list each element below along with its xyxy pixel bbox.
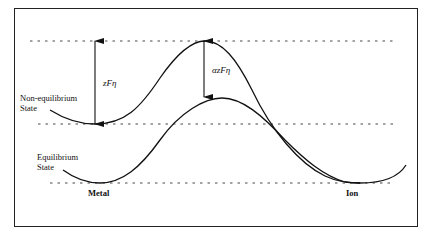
non-equilibrium-label-line2: State (20, 103, 37, 113)
non-equilibrium-curve (50, 41, 406, 183)
equilibrium-label-line2: State (37, 162, 54, 172)
alpha-zfeta-label: αzFη (212, 65, 230, 75)
ion-label: Ion (346, 188, 358, 198)
energy-diagram (0, 0, 426, 241)
non-equilibrium-label-line1: Non-equilibrium (20, 93, 77, 103)
zfeta-label: zFη (103, 78, 116, 88)
equilibrium-label-line1: Equilibrium (37, 152, 78, 162)
metal-label: Metal (88, 188, 109, 198)
